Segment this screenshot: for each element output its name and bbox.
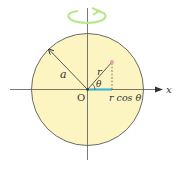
label-origin: O [77,92,85,103]
origin-dot [86,88,89,91]
rotation-arrow-icon [68,8,105,23]
label-x-axis: x [166,84,172,95]
point-marker [110,60,114,64]
label-a: a [60,68,67,81]
label-theta: θ [96,79,102,89]
label-projection: r cos θ [109,92,141,103]
disk-diagram: a r θ O r cos θ x [0,0,180,172]
